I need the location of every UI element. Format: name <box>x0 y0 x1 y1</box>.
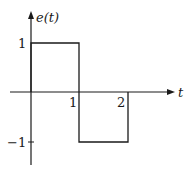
y-axis-arrow-icon <box>28 11 34 19</box>
waveform-diagram: e(t) t 1 −1 1 2 <box>0 0 191 177</box>
x-tick-label-1: 1 <box>69 95 77 110</box>
y-tick-label-minus1: −1 <box>7 135 26 150</box>
y-tick-label-1: 1 <box>18 36 26 51</box>
y-axis-label: e(t) <box>36 10 59 25</box>
x-tick-label-2: 2 <box>117 95 125 110</box>
x-axis-label: t <box>178 85 184 100</box>
x-axis-arrow-icon <box>167 89 175 95</box>
